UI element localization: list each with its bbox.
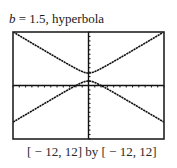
window-caption: [ − 12, 12] by [ − 12, 12] xyxy=(27,144,156,160)
graph-window xyxy=(0,0,177,168)
axes xyxy=(13,32,164,139)
